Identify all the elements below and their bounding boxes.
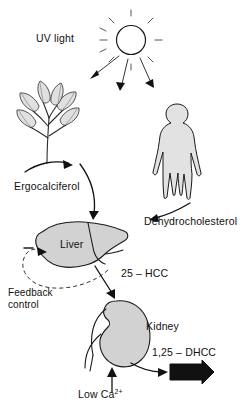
sun-to-human-arrow-1 xyxy=(116,59,128,91)
low-calcium-text: Low Ca xyxy=(78,388,115,400)
ergocalciferol-arrow xyxy=(80,164,99,220)
sun-to-plant-arrow xyxy=(90,56,119,79)
low-calcium-label: Low Ca2+ xyxy=(78,388,123,400)
dehydrocholesterol-label: Dehydrocholesterol xyxy=(144,215,237,227)
dhcc-125-label: 1,25 – DHCC xyxy=(152,346,216,358)
kidney-to-product-arrow xyxy=(131,363,168,377)
diagram-canvas: UV light xyxy=(0,0,250,405)
uv-light-label: UV light xyxy=(36,32,74,44)
sun-to-human-arrow-2 xyxy=(140,58,154,88)
hcc-25-arrow xyxy=(95,266,115,299)
ergocalciferol-label: Ergocalciferol xyxy=(14,180,80,192)
feedback-control-label-line2: control xyxy=(8,299,39,310)
human-figure-icon xyxy=(153,104,201,200)
hcc-25-label: 25 – HCC xyxy=(121,267,169,279)
kidney-icon xyxy=(85,301,150,371)
plant-icon xyxy=(17,81,79,163)
sun-icon xyxy=(100,10,162,70)
plant-to-ergocalciferol-arrow xyxy=(25,160,73,172)
kidney-label: Kidney xyxy=(146,320,180,332)
liver-label: Liver xyxy=(60,238,84,250)
vitamin-d-pathway-diagram: UV light xyxy=(0,0,250,405)
block-arrow-icon xyxy=(170,360,214,384)
low-calcium-superscript: 2+ xyxy=(115,388,123,395)
feedback-control-label-line1: Feedback xyxy=(8,287,54,298)
